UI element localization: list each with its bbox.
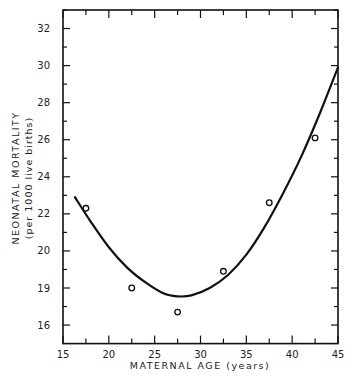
data-point	[312, 135, 318, 141]
x-axis-ticks: 15202530354045	[57, 10, 345, 360]
y-axis-title: NEONATAL MORTALITY	[10, 111, 21, 244]
y-tick-label: 19	[37, 283, 50, 294]
x-tick-label: 15	[57, 349, 70, 360]
data-point	[83, 206, 89, 212]
fitted-curve-path	[75, 67, 338, 296]
data-point	[175, 309, 181, 315]
y-tick-label: 22	[37, 208, 50, 219]
data-point	[221, 269, 227, 275]
y-tick-label: 28	[37, 97, 50, 108]
data-point	[129, 285, 135, 291]
x-tick-label: 20	[102, 349, 115, 360]
x-tick-label: 45	[332, 349, 345, 360]
y-axis-subtitle: (per 1000 live births)	[23, 117, 34, 239]
y-axis-ticks: 161920222426283032	[37, 10, 338, 331]
chart: 15202530354045 161920222426283032 MATERN…	[0, 0, 358, 382]
y-tick-label: 24	[37, 171, 50, 182]
y-tick-label: 30	[37, 60, 50, 71]
y-tick-label: 26	[37, 134, 50, 145]
x-tick-label: 35	[240, 349, 253, 360]
fitted-curve	[75, 67, 338, 296]
x-tick-label: 30	[194, 349, 207, 360]
y-tick-label: 32	[37, 23, 50, 34]
x-tick-label: 25	[148, 349, 161, 360]
x-tick-label: 40	[286, 349, 299, 360]
y-tick-label: 20	[37, 245, 50, 256]
data-point	[266, 200, 272, 206]
x-axis-title: MATERNAL AGE (years)	[130, 360, 271, 371]
y-tick-label: 16	[37, 320, 50, 331]
data-points	[83, 135, 318, 315]
